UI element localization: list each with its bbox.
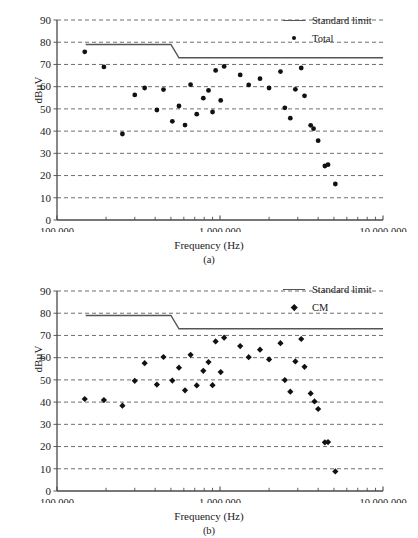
data-point bbox=[177, 104, 182, 109]
data-point bbox=[299, 66, 304, 71]
data-point-group bbox=[82, 49, 337, 186]
legend-label-standard-limit: Standard limit bbox=[312, 284, 372, 295]
data-point bbox=[298, 336, 304, 342]
y-tick-label: 80 bbox=[40, 307, 52, 319]
data-point bbox=[292, 358, 298, 364]
y-tick-label: 0 bbox=[46, 214, 52, 226]
data-point bbox=[132, 92, 137, 97]
data-point bbox=[213, 68, 218, 73]
data-point bbox=[315, 406, 321, 412]
data-point bbox=[102, 64, 107, 69]
data-point bbox=[161, 87, 166, 92]
x-tick-label: 1 000 000 bbox=[199, 497, 241, 503]
data-point bbox=[222, 64, 227, 69]
data-point bbox=[311, 398, 317, 404]
data-point bbox=[210, 110, 215, 115]
data-point bbox=[287, 389, 293, 395]
y-tick-label: 40 bbox=[40, 396, 52, 408]
data-point bbox=[188, 82, 193, 87]
y-tick-label: 80 bbox=[40, 36, 52, 48]
legend-circle-icon bbox=[281, 36, 307, 41]
y-axis-label-a: dBµV bbox=[32, 60, 44, 120]
data-point bbox=[187, 352, 193, 358]
legend-a: Standard limit Total bbox=[281, 12, 372, 48]
legend-item-standard-limit-a: Standard limit bbox=[281, 12, 372, 28]
data-point bbox=[316, 138, 321, 143]
data-point bbox=[194, 382, 200, 388]
data-point bbox=[182, 387, 188, 393]
data-point bbox=[194, 112, 199, 117]
data-point bbox=[332, 468, 338, 474]
x-tick-label: 10 000 000 bbox=[359, 226, 406, 232]
data-point bbox=[142, 360, 148, 366]
y-tick-label: 20 bbox=[40, 440, 52, 452]
data-point bbox=[282, 105, 287, 110]
y-tick-label: 30 bbox=[40, 418, 52, 430]
legend-diamond-icon bbox=[281, 305, 307, 310]
data-point bbox=[170, 119, 175, 124]
data-point bbox=[218, 369, 224, 375]
data-point bbox=[154, 108, 159, 113]
data-point bbox=[160, 354, 166, 360]
data-point bbox=[200, 368, 206, 374]
y-tick-label: 10 bbox=[40, 463, 52, 475]
legend-b: Standard limit CM bbox=[281, 281, 372, 317]
data-point bbox=[282, 377, 288, 383]
data-point bbox=[176, 365, 182, 371]
data-point bbox=[258, 76, 263, 81]
x-tick-label: 100 000 bbox=[40, 497, 74, 503]
data-point bbox=[246, 354, 252, 360]
data-point bbox=[293, 87, 298, 92]
legend-item-total-a: Total bbox=[281, 30, 372, 46]
x-tick-label: 1 000 000 bbox=[199, 226, 241, 232]
data-point bbox=[302, 93, 307, 98]
data-point bbox=[277, 340, 283, 346]
x-axis-label-b: Frequency (Hz) bbox=[0, 510, 418, 522]
data-point bbox=[246, 82, 251, 87]
y-tick-label: 20 bbox=[40, 169, 52, 181]
data-point bbox=[267, 86, 272, 91]
legend-label-total: Total bbox=[312, 33, 333, 44]
legend-label-cm: CM bbox=[312, 302, 328, 313]
y-tick-label: 10 bbox=[40, 192, 52, 204]
legend-item-standard-limit-b: Standard limit bbox=[281, 281, 372, 297]
x-tick-label: 100 000 bbox=[40, 226, 74, 232]
data-point bbox=[266, 356, 272, 362]
y-tick-label: 0 bbox=[46, 485, 52, 497]
data-point bbox=[154, 381, 160, 387]
y-tick-label: 90 bbox=[40, 14, 52, 26]
data-point bbox=[142, 86, 147, 91]
data-point bbox=[308, 390, 314, 396]
data-point bbox=[218, 98, 223, 103]
data-point bbox=[206, 88, 211, 93]
data-point bbox=[213, 338, 219, 344]
panel-caption-a: (a) bbox=[0, 254, 418, 265]
data-point bbox=[238, 72, 243, 77]
figure-panel-a: 0102030405060708090100 0001 000 00010 00… bbox=[0, 0, 418, 269]
data-point bbox=[119, 403, 125, 409]
data-point bbox=[183, 123, 188, 128]
data-point bbox=[333, 182, 338, 187]
legend-item-cm-b: CM bbox=[281, 299, 372, 315]
data-point bbox=[169, 377, 175, 383]
data-point bbox=[301, 364, 307, 370]
y-tick-label: 40 bbox=[40, 125, 52, 137]
standard-limit-line bbox=[86, 315, 383, 328]
data-point bbox=[278, 69, 283, 74]
y-tick-label: 90 bbox=[40, 285, 52, 297]
y-tick-label: 30 bbox=[40, 147, 52, 159]
x-axis-label-a: Frequency (Hz) bbox=[0, 239, 418, 251]
data-point bbox=[257, 347, 263, 353]
data-point bbox=[326, 162, 331, 167]
data-point bbox=[237, 343, 243, 349]
data-point bbox=[205, 359, 211, 365]
panel-caption-b: (b) bbox=[0, 525, 418, 536]
data-point bbox=[288, 116, 293, 121]
data-point bbox=[132, 378, 138, 384]
y-axis-label-b: dBµV bbox=[32, 329, 44, 389]
data-point bbox=[209, 382, 215, 388]
x-tick-label: 10 000 000 bbox=[359, 497, 406, 503]
data-point bbox=[82, 49, 87, 54]
data-point bbox=[82, 396, 88, 402]
legend-label-standard-limit: Standard limit bbox=[312, 15, 372, 26]
